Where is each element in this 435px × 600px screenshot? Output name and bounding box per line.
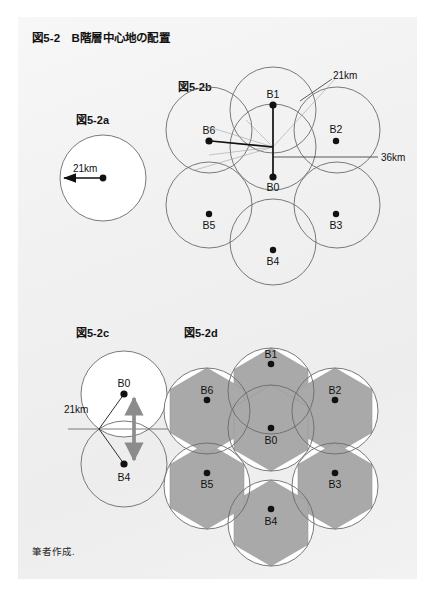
figure-page: 図5-2 B階層中心地の配置 筆者作成. 図5-2a 21km 図5-2b <box>0 0 435 600</box>
figure-sheet: 図5-2 B階層中心地の配置 筆者作成. <box>18 17 417 579</box>
page-title: 図5-2 B階層中心地の配置 <box>32 29 170 45</box>
source-note: 筆者作成. <box>32 544 74 558</box>
